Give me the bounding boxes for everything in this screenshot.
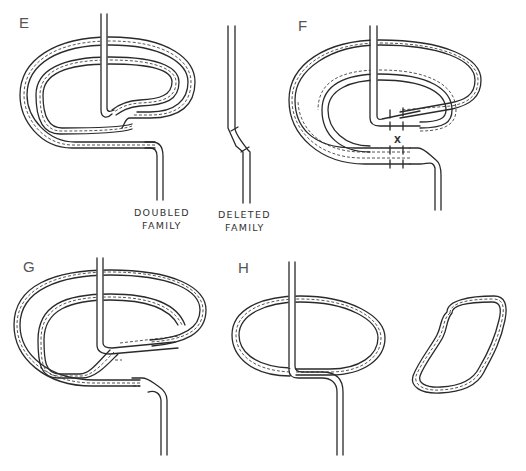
diagram-canvas: E DOUBLED FAMILY DELETED [0,0,526,471]
panel-label-e: E [19,14,29,31]
panel-label-h: H [238,259,249,276]
crossover-marker-x: X [394,135,401,145]
panel-g: G [14,258,206,455]
panel-label-f: F [298,17,307,34]
excised-circle [412,296,506,393]
linear-product [289,262,343,455]
panel-f: F X [289,17,481,210]
caption-deleted-line2: FAMILY [225,222,265,233]
panel-h: H [232,259,506,455]
panel-e: E DOUBLED FAMILY [19,14,195,231]
caption-deleted-line1: DELETED [218,209,271,220]
caption-doubled-line1: DOUBLED [134,207,190,218]
circular-product [232,296,385,376]
incoming-strand-e [101,14,114,117]
outgoing-strand-e [145,142,163,200]
deleted-family-strand: DELETED FAMILY [218,26,271,233]
panel-label-g: G [23,258,35,275]
caption-doubled-line2: FAMILY [142,220,182,231]
